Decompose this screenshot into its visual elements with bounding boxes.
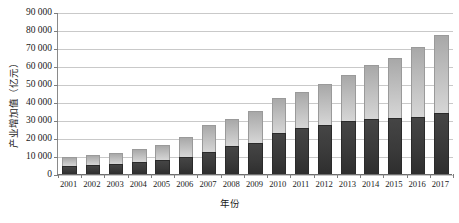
x-axis-tick [453, 174, 454, 178]
x-axis-title: 年份 [0, 196, 459, 210]
y-axis-tick-label: 90 000 [0, 8, 52, 18]
bar-segment-upper[interactable] [388, 58, 402, 118]
stacked-bar[interactable] [341, 75, 355, 174]
bar-series-group [58, 12, 453, 174]
bar-segment-lower[interactable] [109, 164, 123, 174]
x-axis-tick-label: 2003 [103, 177, 126, 191]
bar-slot[interactable] [290, 12, 313, 174]
bar-segment-upper[interactable] [248, 111, 262, 143]
bar-segment-upper[interactable] [411, 47, 425, 116]
bar-segment-lower[interactable] [155, 160, 169, 174]
x-axis-tick-label: 2007 [196, 177, 219, 191]
bar-slot[interactable] [221, 12, 244, 174]
bar-segment-lower[interactable] [341, 121, 355, 174]
bar-segment-upper[interactable] [109, 153, 123, 165]
bar-slot[interactable] [383, 12, 406, 174]
bar-segment-lower[interactable] [132, 162, 146, 174]
stacked-bar[interactable] [62, 157, 76, 174]
bar-slot[interactable] [314, 12, 337, 174]
x-axis-tick-label: 2015 [382, 177, 405, 191]
y-axis-tick-label: 60 000 [0, 62, 52, 72]
bar-slot[interactable] [267, 12, 290, 174]
x-axis-tick-label: 2011 [289, 177, 312, 191]
bar-segment-upper[interactable] [272, 98, 286, 133]
bar-slot[interactable] [58, 12, 81, 174]
bar-segment-upper[interactable] [86, 155, 100, 165]
x-axis-tick-label: 2001 [57, 177, 80, 191]
bar-segment-lower[interactable] [388, 118, 402, 174]
bar-segment-upper[interactable] [179, 137, 193, 157]
stacked-bar[interactable] [86, 155, 100, 174]
bar-segment-upper[interactable] [434, 35, 448, 113]
x-axis-tick-label: 2002 [80, 177, 103, 191]
bar-slot[interactable] [337, 12, 360, 174]
stacked-bar[interactable] [318, 84, 332, 174]
plot-area: 010 00020 00030 00040 00050 00060 00070 … [57, 13, 452, 175]
bar-segment-upper[interactable] [155, 145, 169, 160]
y-axis-tick-label: 80 000 [0, 26, 52, 36]
x-axis-tick-label: 2014 [359, 177, 382, 191]
bar-segment-upper[interactable] [132, 149, 146, 162]
bar-slot[interactable] [360, 12, 383, 174]
bar-segment-lower[interactable] [434, 113, 448, 174]
bar-segment-lower[interactable] [248, 143, 262, 174]
bar-segment-upper[interactable] [295, 92, 309, 128]
x-axis-tick-labels: 2001200220032004200520062007200820092010… [57, 177, 452, 191]
x-axis-tick-label: 2010 [266, 177, 289, 191]
bar-slot[interactable] [430, 12, 453, 174]
stacked-bar[interactable] [179, 137, 193, 174]
x-axis-tick-label: 2009 [243, 177, 266, 191]
stacked-bar[interactable] [295, 92, 309, 174]
y-axis-tick-label: 10 000 [0, 152, 52, 162]
gridline [58, 175, 453, 176]
x-axis-tick-label: 2004 [127, 177, 150, 191]
x-axis-tick-label: 2013 [336, 177, 359, 191]
y-axis-tick-label: 40 000 [0, 98, 52, 108]
bar-segment-lower[interactable] [225, 146, 239, 174]
y-axis-tick-label: 20 000 [0, 134, 52, 144]
y-axis-tick-label: 70 000 [0, 44, 52, 54]
stacked-bar[interactable] [364, 65, 378, 174]
bar-segment-lower[interactable] [318, 125, 332, 174]
bar-slot[interactable] [244, 12, 267, 174]
stacked-bar[interactable] [272, 98, 286, 174]
bar-segment-lower[interactable] [62, 166, 76, 174]
bar-segment-upper[interactable] [225, 119, 239, 147]
chart-container: 产业增加值（亿元） 010 00020 00030 00040 00050 00… [0, 0, 459, 223]
stacked-bar[interactable] [225, 119, 239, 174]
x-axis-tick-label: 2005 [150, 177, 173, 191]
stacked-bar[interactable] [202, 125, 216, 174]
bar-slot[interactable] [407, 12, 430, 174]
bar-segment-lower[interactable] [364, 119, 378, 174]
bar-segment-upper[interactable] [341, 75, 355, 121]
y-axis-tick-label: 50 000 [0, 80, 52, 90]
x-axis-tick-label: 2008 [220, 177, 243, 191]
stacked-bar[interactable] [434, 35, 448, 174]
bar-segment-lower[interactable] [86, 165, 100, 174]
bar-segment-lower[interactable] [179, 157, 193, 174]
bar-segment-upper[interactable] [318, 84, 332, 125]
stacked-bar[interactable] [132, 149, 146, 174]
x-axis-tick-label: 2012 [313, 177, 336, 191]
bar-slot[interactable] [104, 12, 127, 174]
bar-segment-lower[interactable] [202, 152, 216, 174]
stacked-bar[interactable] [248, 111, 262, 174]
y-axis-tick-label: 30 000 [0, 116, 52, 126]
bar-segment-lower[interactable] [272, 133, 286, 174]
bar-segment-upper[interactable] [62, 157, 76, 166]
x-axis-tick-label: 2006 [173, 177, 196, 191]
bar-segment-upper[interactable] [364, 65, 378, 119]
bar-slot[interactable] [81, 12, 104, 174]
stacked-bar[interactable] [109, 153, 123, 174]
bar-slot[interactable] [174, 12, 197, 174]
stacked-bar[interactable] [155, 145, 169, 174]
bar-slot[interactable] [128, 12, 151, 174]
x-axis-tick-label: 2016 [406, 177, 429, 191]
stacked-bar[interactable] [388, 58, 402, 174]
bar-slot[interactable] [151, 12, 174, 174]
bar-slot[interactable] [197, 12, 220, 174]
stacked-bar[interactable] [411, 47, 425, 174]
bar-segment-lower[interactable] [295, 128, 309, 174]
bar-segment-lower[interactable] [411, 117, 425, 174]
bar-segment-upper[interactable] [202, 125, 216, 152]
